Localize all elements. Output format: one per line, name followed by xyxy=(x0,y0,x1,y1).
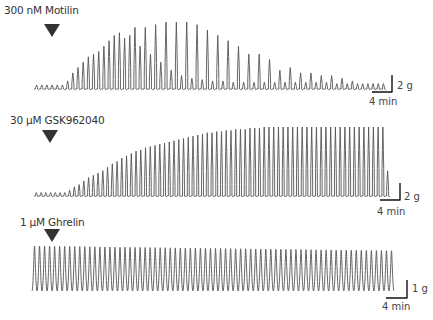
panel-3-time-scale-label: 4 min xyxy=(382,301,410,312)
panel-3-contraction-trace xyxy=(0,0,433,320)
panel-3-amplitude-scale-label: 1 g xyxy=(412,283,428,294)
